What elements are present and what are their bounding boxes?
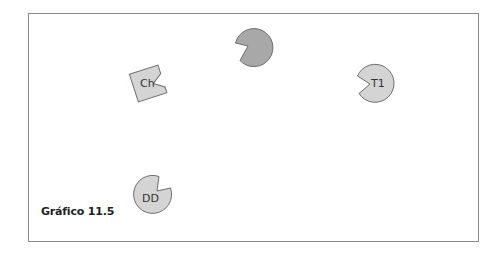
t1-label: T1 [370, 77, 385, 90]
dd-label: DD [142, 192, 159, 205]
top-pacman-shape [236, 29, 273, 67]
ch-label: Ch [140, 77, 155, 90]
figure-caption: Gráfico 11.5 [41, 205, 114, 218]
